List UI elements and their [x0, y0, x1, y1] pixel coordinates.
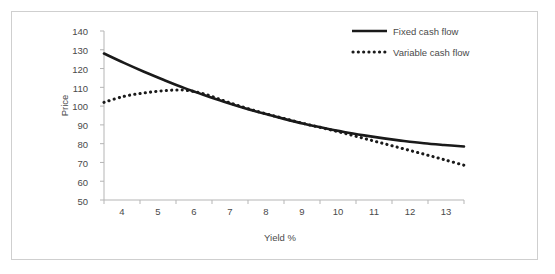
x-tick-marks [104, 200, 464, 204]
series-line-variable-cash-flow [104, 90, 464, 165]
chart-figure: Price Yield % 140 130 120 110 100 90 80 … [0, 0, 555, 274]
y-tick-marks [100, 31, 104, 200]
series-line-fixed-cash-flow [104, 54, 464, 147]
axis-lines [104, 31, 464, 200]
plot-area [0, 0, 555, 274]
